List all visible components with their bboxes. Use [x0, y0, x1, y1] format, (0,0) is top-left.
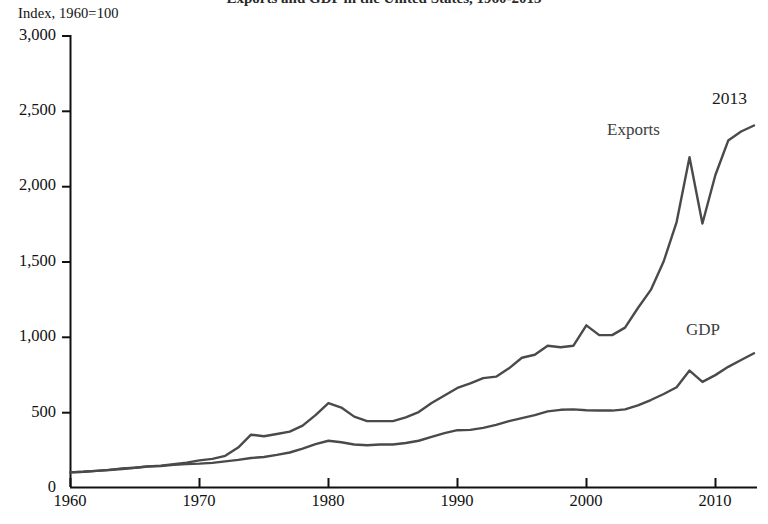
- plot-area: [0, 0, 768, 524]
- series-line-gdp: [71, 353, 755, 472]
- chart-figure: Exports and GDP in the United States, 19…: [0, 0, 768, 524]
- series-line-exports: [71, 126, 755, 473]
- x-axis-ticks: [71, 478, 716, 487]
